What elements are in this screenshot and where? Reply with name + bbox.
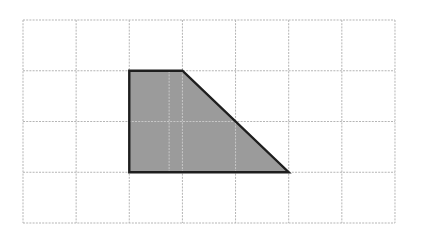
grid-diagram xyxy=(0,0,423,239)
